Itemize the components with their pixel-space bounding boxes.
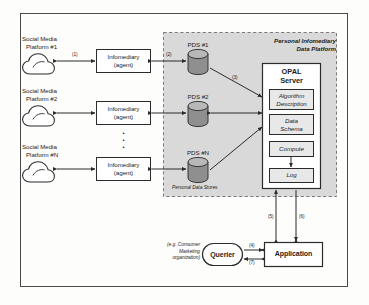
cloud-icon-1 — [23, 54, 55, 74]
social-platform-1-line2: Platform #1 — [26, 43, 57, 51]
database-cylinder-icon-1 — [188, 49, 208, 74]
database-cylinder-icon-3 — [188, 157, 208, 182]
diagram-canvas: Personal Infomediary Data Platform Perso… — [0, 0, 369, 305]
opal-server-title-line1: OPAL — [263, 68, 320, 76]
junction-dot-5 — [275, 240, 278, 243]
ellipsis-dot-2: • — [97, 137, 150, 144]
opal-module-data-schema-line2: Schema — [270, 125, 313, 133]
step-label-3: (3) — [232, 75, 238, 80]
social-platform-3-line1: Social Media — [22, 143, 57, 151]
opal-module-log-label: Log — [270, 171, 313, 179]
pds-label-1: PDS #1 — [178, 41, 218, 49]
pds-label-2: PDS #2 — [178, 93, 218, 101]
step-label-4: (4) — [249, 243, 255, 248]
opal-module-data-schema-line1: Data — [270, 117, 313, 125]
platform-title-line2: Data Platform — [232, 45, 336, 53]
infomediary-1-line1: Infomediary — [97, 53, 150, 61]
infomediary-2-line1: Infomediary — [97, 105, 150, 113]
opal-server-title-line2: Server — [263, 77, 320, 85]
infomediary-1-line2: (agent) — [97, 61, 150, 69]
cloud-icon-3 — [23, 162, 55, 182]
social-platform-2-line2: Platform #2 — [26, 95, 57, 103]
social-platform-3-line2: Platform #N — [26, 151, 58, 159]
junction-dot-6 — [295, 240, 298, 243]
opal-module-compute-label: Compute — [270, 145, 313, 153]
application-label: Application — [265, 250, 322, 258]
platform-title-line1: Personal Infomediary — [232, 37, 336, 45]
database-cylinder-icon-2 — [188, 101, 208, 126]
social-platform-1-line1: Social Media — [22, 35, 57, 43]
platform-sublabel: Personal Data Stores — [172, 184, 218, 192]
social-platform-2-line1: Social Media — [22, 87, 57, 95]
step-label-5: (5) — [268, 214, 274, 219]
step-label-7: (7) — [249, 260, 255, 265]
junction-dot-7 — [262, 258, 265, 261]
opal-module-algorithm-line1: Algorithm — [270, 92, 313, 100]
querier-note-line1: (e.g. Consumer — [146, 242, 200, 248]
step-label-1: (1) — [72, 52, 78, 57]
cloud-icon-2 — [23, 106, 55, 126]
querier-note-line3: organization) — [146, 255, 200, 261]
opal-module-algorithm-line2: Description — [270, 100, 313, 108]
step-label-2: (2) — [166, 52, 172, 57]
step-label-6: (6) — [299, 214, 305, 219]
querier-note-line2: Marketing — [146, 249, 200, 255]
ellipsis-dot-1: • — [97, 130, 150, 137]
infomediary-3-line2: (agent) — [97, 169, 150, 177]
pds-label-3: PDS #N — [178, 149, 218, 157]
infomediary-2-line2: (agent) — [97, 113, 150, 121]
infomediary-3-line1: Infomediary — [97, 161, 150, 169]
ellipsis-dot-3: • — [97, 144, 150, 151]
querier-label: Querier — [203, 251, 242, 259]
